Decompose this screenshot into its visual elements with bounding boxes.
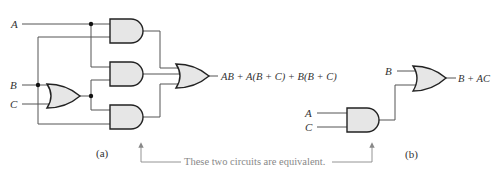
output-expression-b: B + AC (458, 73, 491, 84)
or-gate-b (413, 66, 446, 91)
equivalence-annotation: These two circuits are equivalent. (141, 145, 372, 167)
junction-dot (89, 22, 93, 26)
output-expression-a: AB + A(B + C) + B(B + C) (220, 71, 337, 83)
input-label-a: A (10, 18, 18, 30)
and-gate-2 (110, 62, 143, 86)
caption-b: (b) (405, 148, 418, 161)
and-gate-3 (110, 105, 143, 129)
arrow-to-circuit-b (332, 145, 372, 162)
and-gate-b (347, 108, 379, 132)
equivalence-note: These two circuits are equivalent. (184, 156, 325, 167)
junction-dot (36, 83, 40, 87)
logic-diagram: A B C AB + A(B + C) + B(B + C) (a) B A C… (0, 0, 500, 174)
caption-a: (a) (96, 147, 109, 160)
and-gate-1 (110, 19, 143, 43)
input-label-c: C (305, 121, 313, 133)
input-label-a: A (304, 107, 312, 119)
or-gate-1 (47, 84, 80, 108)
or-gate-2 (176, 64, 209, 88)
input-label-b: B (385, 65, 392, 77)
junction-dot (89, 94, 93, 98)
arrow-to-circuit-a (141, 145, 181, 162)
circuit-a: A B C AB + A(B + C) + B(B + C) (a) (10, 18, 337, 160)
input-label-b: B (10, 79, 17, 91)
input-label-c: C (10, 98, 18, 110)
